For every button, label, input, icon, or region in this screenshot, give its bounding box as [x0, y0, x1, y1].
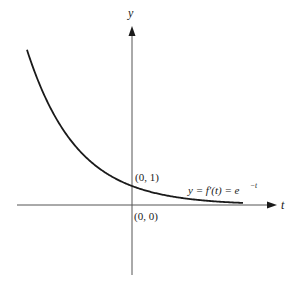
equation-label: y = f′(t) = e −t — [187, 181, 258, 197]
intercept-label: (0, 1) — [135, 171, 159, 184]
origin-label: (0, 0) — [134, 210, 158, 223]
y-axis-arrow-icon — [129, 26, 136, 36]
y-axis-label: y — [127, 6, 134, 20]
t-axis-arrow-icon — [267, 202, 277, 209]
y-axis — [129, 26, 136, 275]
exponential-decay-chart: y t (0, 1) (0, 0) y = f′(t) = e −t — [0, 0, 299, 286]
t-axis-label: t — [281, 198, 285, 212]
svg-text:−t: −t — [250, 181, 258, 190]
svg-text:y = f′(t) = e: y = f′(t) = e — [187, 184, 240, 197]
